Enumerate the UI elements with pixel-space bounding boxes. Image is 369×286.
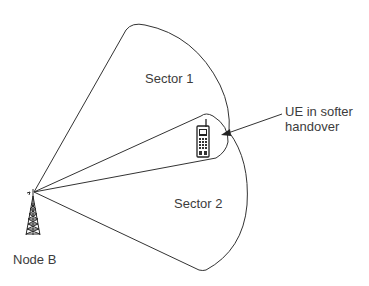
ue-annotation-line1: UE in softer xyxy=(285,104,353,119)
sector-2-label: Sector 2 xyxy=(174,196,222,211)
diagram-canvas xyxy=(0,0,369,286)
antenna-tower-icon xyxy=(26,189,40,235)
node-b-label: Node B xyxy=(13,252,56,267)
sector-1-label: Sector 1 xyxy=(145,71,193,86)
annotation-arrow xyxy=(221,114,282,136)
sector-1-boundary xyxy=(34,24,229,192)
mobile-phone-icon xyxy=(197,119,209,157)
ue-annotation-line2: handover xyxy=(285,119,339,134)
